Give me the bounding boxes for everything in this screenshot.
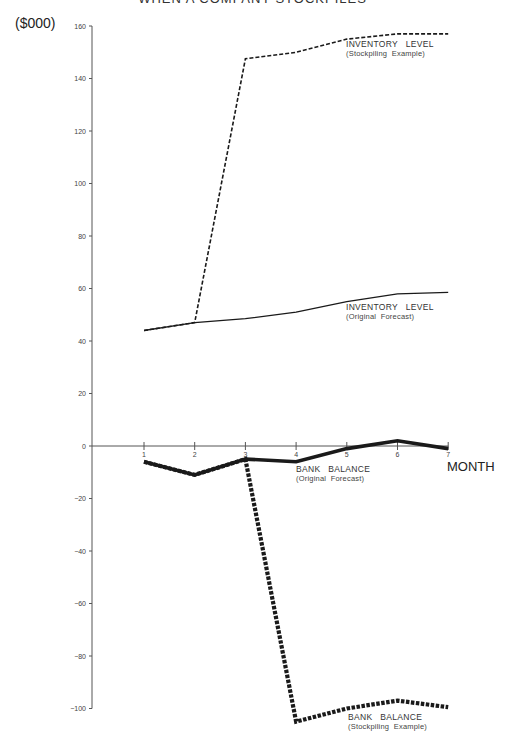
series-sublabel-bank-balance-stockpiling-example: (Stockpiling Example) — [348, 722, 427, 731]
series-label-bank-balance-stockpiling-example: BANK BALANCE — [348, 712, 422, 722]
axes: 160140120100806040200−20−40−60−80−100123… — [70, 23, 494, 713]
x-axis-title: MONTH — [447, 459, 495, 474]
series-lines — [144, 34, 448, 722]
y-tick-label: 80 — [78, 233, 86, 240]
y-tick-label: 20 — [78, 390, 86, 397]
series-line-bank-balance-stockpiling-example — [144, 459, 448, 721]
y-tick-label: −100 — [70, 705, 86, 712]
x-tick-label: 4 — [294, 451, 298, 458]
x-tick-label: 6 — [396, 451, 400, 458]
series-sublabel-bank-balance-original-forecast: (Original Forecast) — [296, 474, 364, 483]
series-label-inventory-level-stockpiling-example: INVENTORY LEVEL — [346, 39, 434, 49]
series-sublabel-inventory-level-original-forecast: (Original Forecast) — [346, 312, 414, 321]
y-tick-label: −80 — [74, 653, 86, 660]
y-tick-label: −60 — [74, 600, 86, 607]
series-line-inventory-level-stockpiling-example — [144, 34, 448, 331]
x-tick-label: 5 — [345, 451, 349, 458]
series-sublabel-inventory-level-stockpiling-example: (Stockpiling Example) — [346, 49, 425, 58]
y-tick-label: −40 — [74, 548, 86, 555]
y-tick-label: 0 — [82, 443, 86, 450]
series-labels: INVENTORY LEVEL(Stockpiling Example)INVE… — [296, 39, 434, 731]
y-tick-label: 120 — [74, 128, 86, 135]
series-label-inventory-level-original-forecast: INVENTORY LEVEL — [346, 302, 434, 312]
x-tick-label: 2 — [193, 451, 197, 458]
x-tick-label: 1 — [142, 451, 146, 458]
y-tick-label: 140 — [74, 75, 86, 82]
line-chart: 160140120100806040200−20−40−60−80−100123… — [0, 0, 505, 741]
y-tick-label: −20 — [74, 495, 86, 502]
y-tick-label: 100 — [74, 180, 86, 187]
y-tick-label: 60 — [78, 285, 86, 292]
y-tick-label: 40 — [78, 338, 86, 345]
y-tick-label: 160 — [74, 23, 86, 30]
series-label-bank-balance-original-forecast: BANK BALANCE — [296, 464, 370, 474]
x-tick-label: 7 — [446, 451, 450, 458]
